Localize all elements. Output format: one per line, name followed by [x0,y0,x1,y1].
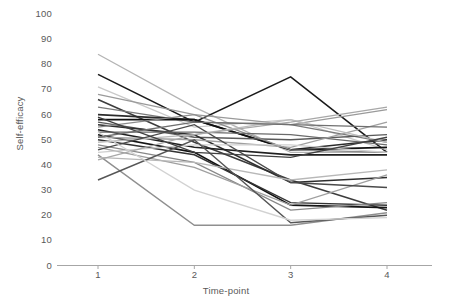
axis-lines [57,266,432,270]
plot-area [0,0,452,306]
x-axis-tick-4: 4 [384,270,389,280]
series-line [98,155,387,225]
chart-container: Self-efficacy 0102030405060708090100 123… [0,0,452,306]
x-axis-title: Time-point [0,285,452,296]
x-axis-tick-3: 3 [288,270,293,280]
x-axis-tick-2: 2 [192,270,197,280]
x-axis-tick-1: 1 [95,270,100,280]
series-lines [98,54,387,225]
